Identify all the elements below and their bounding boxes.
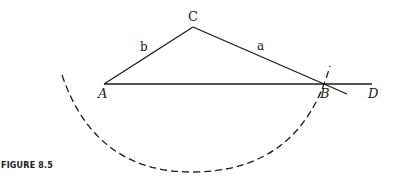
geometry-drawing bbox=[0, 0, 394, 182]
point-label-b: B bbox=[320, 87, 330, 100]
side-label-a: a bbox=[257, 40, 264, 52]
figure-caption: FIGURE 8.5 bbox=[1, 161, 53, 170]
segment-ac bbox=[104, 27, 193, 84]
point-label-a: A bbox=[98, 87, 107, 100]
side-label-b: b bbox=[140, 41, 148, 53]
dashed-arc bbox=[62, 66, 330, 172]
point-label-c: C bbox=[188, 10, 198, 23]
figure-canvas: C A B D b a FIGURE 8.5 bbox=[0, 0, 394, 182]
point-label-d: D bbox=[368, 87, 378, 100]
